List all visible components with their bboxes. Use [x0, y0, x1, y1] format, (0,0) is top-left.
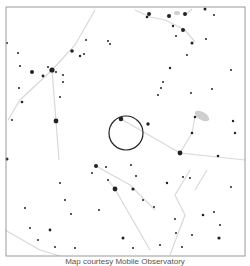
star: [230, 186, 232, 188]
star: [191, 132, 194, 135]
star: [17, 52, 19, 54]
star: [172, 25, 174, 27]
constellation-line: [170, 170, 190, 255]
star: [122, 237, 125, 240]
star: [132, 247, 134, 249]
star: [49, 229, 52, 232]
star: [59, 182, 61, 184]
star: [94, 164, 98, 168]
star: [49, 67, 54, 72]
star: [181, 28, 185, 32]
star: [21, 101, 24, 104]
star: [175, 232, 177, 234]
star: [29, 227, 31, 229]
star: [213, 211, 215, 213]
star: [175, 35, 177, 37]
star: [234, 132, 236, 134]
star: [83, 53, 85, 55]
star: [47, 66, 49, 68]
star: [79, 55, 81, 57]
star: [232, 120, 234, 122]
star: [146, 122, 149, 125]
constellation-line: [8, 70, 52, 120]
star: [189, 177, 191, 179]
star: [194, 116, 197, 119]
star: [42, 75, 45, 78]
star: [98, 209, 100, 211]
star: [107, 179, 109, 181]
constellation-line: [195, 170, 207, 190]
star: [19, 65, 21, 67]
constellation-line: [121, 119, 245, 160]
map-caption: Map courtesy Mobile Observatory: [0, 257, 250, 266]
star: [219, 224, 221, 226]
star: [167, 14, 171, 18]
star: [59, 96, 61, 98]
star: [205, 38, 207, 40]
star: [142, 199, 144, 201]
star: [70, 213, 72, 215]
star: [160, 87, 162, 89]
star: [186, 54, 188, 56]
star: [70, 49, 74, 53]
star: [130, 164, 132, 166]
star: [157, 94, 159, 96]
target-circle: [109, 116, 143, 150]
constellation-lines: [5, 9, 245, 256]
star: [74, 247, 76, 249]
star: [85, 39, 87, 41]
constellation-line: [180, 117, 195, 153]
star: [54, 119, 59, 124]
star: [169, 67, 171, 69]
star: [62, 81, 64, 83]
constellation-line: [52, 70, 59, 160]
star: [182, 176, 184, 178]
constellation-line: [5, 230, 60, 256]
star: [230, 69, 232, 71]
star: [217, 236, 220, 239]
star: [178, 151, 183, 156]
star: [183, 12, 187, 16]
constellation-line: [52, 10, 95, 70]
star: [18, 87, 20, 89]
star: [147, 12, 151, 16]
stars: [6, 8, 237, 250]
nebula: [174, 11, 180, 15]
star: [191, 42, 194, 45]
star: [107, 40, 109, 42]
star: [166, 182, 168, 184]
star: [190, 92, 192, 94]
constellation-line: [96, 166, 155, 210]
star: [11, 119, 13, 121]
star: [113, 187, 118, 192]
star: [62, 74, 64, 76]
star: [55, 71, 57, 73]
star: [213, 14, 215, 16]
star: [159, 244, 161, 246]
star: [202, 214, 205, 217]
star: [191, 234, 193, 236]
star: [30, 70, 34, 74]
star: [54, 246, 56, 248]
star: [109, 43, 111, 45]
star: [217, 155, 220, 158]
star: [211, 88, 213, 90]
star: [105, 166, 107, 168]
star: [64, 199, 66, 201]
star: [162, 81, 164, 83]
star: [131, 187, 134, 190]
map-frame: [6, 7, 245, 256]
star: [174, 218, 176, 220]
star: [204, 8, 207, 11]
star: [135, 175, 137, 177]
star: [181, 246, 183, 248]
star: [91, 172, 93, 174]
star: [37, 239, 39, 241]
star: [146, 16, 149, 19]
star: [153, 206, 155, 208]
star: [24, 207, 26, 209]
